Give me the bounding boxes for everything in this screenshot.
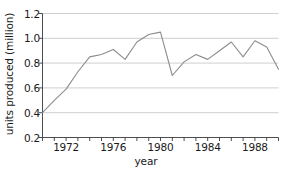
- x-axis-tick-label: 1972: [46, 141, 86, 153]
- x-axis-title: year: [0, 155, 292, 167]
- x-axis-tick-labels: 19721976198019841988: [0, 0, 292, 175]
- x-axis-tick-label: 1980: [141, 141, 181, 153]
- x-axis-tick-label: 1988: [235, 141, 275, 153]
- x-axis-tick-label: 1976: [93, 141, 133, 153]
- x-axis-tick-label: 1984: [188, 141, 228, 153]
- line-chart-figure: units produced (million) 0.20.40.60.81.0…: [0, 0, 292, 175]
